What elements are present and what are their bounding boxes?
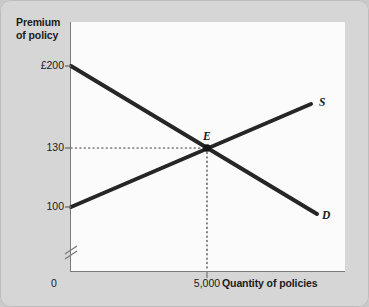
equilibrium-label: E <box>203 130 211 142</box>
x-axis-title: Quantity of policies <box>222 277 317 290</box>
y-tick-label-200: £200 <box>16 59 64 71</box>
axis-break-icon <box>65 246 77 259</box>
x-tick-label-5000: 5,000 <box>182 277 232 289</box>
demand-curve-label: D <box>322 209 330 221</box>
equilibrium-point-marker <box>203 144 211 152</box>
supply-curve <box>71 104 311 207</box>
y-tick-label-130: 130 <box>16 141 64 153</box>
y-axis-title-line2: of policy <box>16 29 58 41</box>
supply-curve-label: S <box>319 96 325 108</box>
y-tick-label-100: 100 <box>16 200 64 212</box>
y-axis-title-line1: Premium <box>16 16 60 28</box>
x-tick-label-0: 0 <box>44 277 64 289</box>
y-axis-title: Premiumof policy <box>16 16 60 41</box>
chart-card: Premiumof policy Quantity of policies £2… <box>0 0 369 307</box>
chart-canvas <box>0 0 369 307</box>
